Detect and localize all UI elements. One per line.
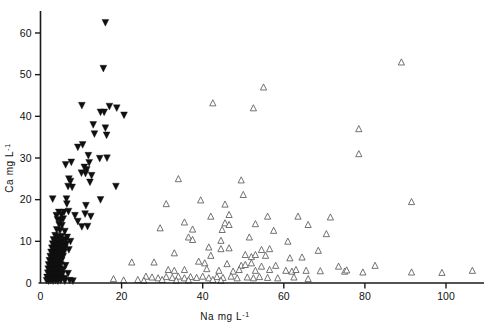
data-point	[226, 245, 232, 251]
data-point	[194, 274, 200, 280]
data-point	[218, 237, 224, 243]
data-point	[250, 275, 256, 281]
data-point	[62, 162, 69, 169]
y-tick-label-50: 50	[20, 68, 32, 80]
y-tick-label-20: 20	[20, 193, 32, 205]
y-tick-label-10: 10	[20, 235, 32, 247]
series-filled-down-triangle	[43, 19, 127, 284]
x-tick-label-40: 40	[197, 290, 209, 302]
chart-page: 0204060801000102030405060 Na mg L-1Ca mg…	[0, 0, 494, 332]
data-point	[258, 246, 264, 252]
data-point	[250, 105, 256, 111]
scatter-plot: 0204060801000102030405060 Na mg L-1Ca mg…	[0, 0, 494, 332]
data-point	[157, 225, 163, 231]
data-point	[291, 274, 297, 280]
data-point	[323, 231, 329, 237]
data-point	[68, 159, 75, 166]
data-point	[163, 273, 169, 279]
data-point	[208, 252, 214, 258]
data-point	[408, 198, 414, 204]
data-point	[169, 274, 175, 280]
data-point	[85, 152, 92, 159]
y-tick-label-30: 30	[20, 152, 32, 164]
data-point	[240, 191, 246, 197]
data-point	[273, 262, 279, 268]
data-point	[210, 100, 216, 106]
data-point	[149, 274, 155, 280]
data-point	[271, 227, 277, 233]
data-point	[287, 255, 293, 261]
data-point	[171, 267, 177, 273]
x-tick-label-60: 60	[278, 290, 290, 302]
tick-marks-layer	[35, 33, 446, 289]
x-axis-title: Na mg L-1	[200, 311, 249, 323]
data-point	[252, 221, 258, 227]
data-point	[305, 221, 311, 227]
data-point	[295, 213, 301, 219]
data-point	[90, 122, 97, 129]
data-point	[97, 197, 104, 204]
data-point	[113, 183, 120, 190]
data-point	[335, 263, 341, 269]
data-point	[83, 202, 90, 209]
data-point	[285, 238, 291, 244]
data-point	[360, 269, 366, 275]
data-point	[317, 268, 323, 274]
data-point	[258, 263, 264, 269]
data-point	[264, 213, 270, 219]
data-point	[181, 266, 187, 272]
data-point	[151, 259, 157, 265]
data-point	[163, 201, 169, 207]
data-point	[303, 267, 309, 273]
data-point	[129, 259, 135, 265]
data-point	[356, 151, 362, 157]
data-point	[398, 59, 404, 65]
data-point	[198, 197, 204, 203]
data-point	[372, 262, 378, 268]
data-point	[267, 246, 273, 252]
data-point	[224, 261, 230, 267]
data-point	[78, 224, 85, 231]
data-point	[408, 269, 414, 275]
data-point	[299, 254, 305, 260]
data-point	[260, 84, 266, 90]
x-tick-label-0: 0	[38, 290, 44, 302]
data-point	[218, 246, 224, 252]
y-tick-label-60: 60	[20, 27, 32, 39]
data-point	[189, 226, 195, 232]
data-point	[267, 266, 273, 272]
data-point	[248, 260, 254, 266]
data-point	[63, 201, 70, 208]
data-point	[219, 226, 225, 232]
data-point	[185, 234, 191, 240]
data-point	[84, 223, 91, 230]
data-point	[100, 65, 107, 72]
data-point	[206, 244, 212, 250]
data-point	[238, 177, 244, 183]
data-point	[78, 102, 85, 109]
data-point	[196, 258, 202, 264]
data-point	[165, 266, 171, 272]
data-point	[264, 274, 270, 280]
data-point	[242, 251, 248, 257]
data-point	[242, 261, 248, 267]
data-point	[226, 211, 232, 217]
x-tick-label-80: 80	[359, 290, 371, 302]
data-point	[204, 266, 210, 272]
data-point	[121, 112, 128, 119]
data-point	[200, 273, 206, 279]
data-point	[74, 144, 81, 151]
data-point	[110, 276, 116, 282]
data-point	[49, 196, 56, 203]
series-open-up-triangle	[110, 59, 475, 283]
data-point	[96, 155, 103, 162]
data-point	[234, 275, 240, 281]
data-point	[262, 252, 268, 258]
data-point	[256, 273, 262, 279]
data-point	[171, 250, 177, 256]
data-point	[175, 176, 181, 182]
data-point	[315, 247, 321, 253]
y-tick-label-0: 0	[26, 277, 32, 289]
data-point	[305, 276, 311, 282]
data-point	[214, 273, 220, 279]
